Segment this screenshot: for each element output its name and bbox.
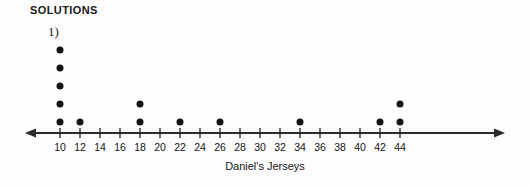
tick-label: 20: [154, 141, 166, 153]
tick-label: 16: [114, 141, 126, 153]
tick-label: 44: [394, 141, 406, 153]
number-line-axis: [0, 0, 530, 187]
data-dot: [177, 119, 184, 126]
data-dot: [397, 119, 404, 126]
data-dot: [57, 47, 64, 54]
dot-plot-figure: SOLUTIONS 1) 101214161820222426283032343…: [0, 0, 530, 187]
tick-label: 26: [214, 141, 226, 153]
tick-label: 34: [294, 141, 306, 153]
tick-label: 24: [194, 141, 206, 153]
data-dot: [57, 101, 64, 108]
tick-label: 28: [234, 141, 246, 153]
data-dot: [57, 65, 64, 72]
axis-arrow-left: [25, 129, 36, 138]
data-dot: [137, 101, 144, 108]
data-dot: [57, 83, 64, 90]
tick-label: 10: [54, 141, 66, 153]
tick-label: 40: [354, 141, 366, 153]
axis-arrow-right: [494, 129, 505, 138]
data-dot: [377, 119, 384, 126]
x-axis-title: Daniel's Jerseys: [0, 160, 530, 172]
data-dot: [77, 119, 84, 126]
data-dot: [57, 119, 64, 126]
data-dot: [137, 119, 144, 126]
tick-label: 18: [134, 141, 146, 153]
data-dot: [217, 119, 224, 126]
data-dot: [397, 101, 404, 108]
tick-label: 14: [94, 141, 106, 153]
tick-label: 12: [74, 141, 86, 153]
number-line-plot: 101214161820222426283032343638404244: [0, 0, 530, 187]
data-dot: [297, 119, 304, 126]
tick-label: 42: [374, 141, 386, 153]
tick-label: 36: [314, 141, 326, 153]
tick-label: 22: [174, 141, 186, 153]
tick-label: 38: [334, 141, 346, 153]
tick-label: 32: [274, 141, 286, 153]
tick-label: 30: [254, 141, 266, 153]
